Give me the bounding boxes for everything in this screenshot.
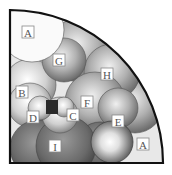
connector-block: [46, 100, 58, 114]
quarter-circle-diagram: A G H B F D C E I A: [0, 0, 172, 175]
svg-text:A: A: [24, 27, 32, 39]
label-c: C: [67, 109, 79, 122]
label-b: B: [16, 86, 28, 99]
svg-text:C: C: [69, 110, 76, 122]
label-f: F: [81, 96, 93, 109]
svg-text:B: B: [18, 87, 25, 99]
label-a-top: A: [22, 26, 34, 39]
svg-text:G: G: [55, 55, 63, 67]
svg-text:I: I: [53, 141, 57, 153]
label-h: H: [101, 68, 113, 81]
label-a-right: A: [137, 138, 149, 151]
label-e: E: [112, 115, 124, 128]
svg-text:H: H: [103, 69, 111, 81]
svg-text:E: E: [115, 116, 122, 128]
label-i: I: [49, 140, 61, 153]
svg-text:A: A: [139, 139, 147, 151]
label-d: D: [27, 111, 39, 124]
svg-text:F: F: [84, 97, 90, 109]
svg-text:D: D: [29, 112, 37, 124]
label-g: G: [53, 54, 65, 67]
